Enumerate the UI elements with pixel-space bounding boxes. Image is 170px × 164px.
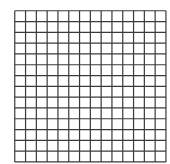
grid-lines <box>14 10 168 164</box>
square-grid <box>14 10 166 162</box>
